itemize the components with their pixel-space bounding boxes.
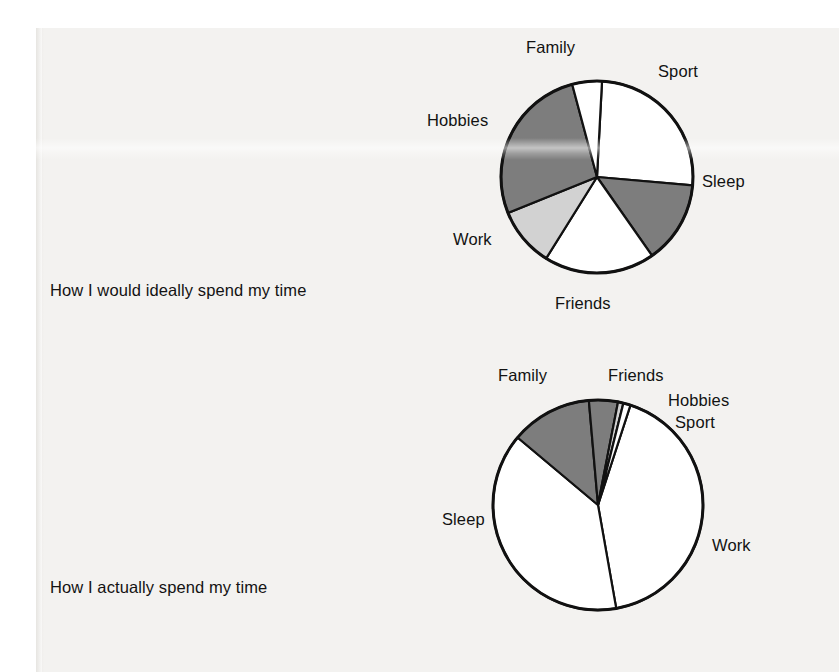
pie-label-friends: Friends [608,366,664,385]
pie-chart-ideal: FamilySportSleepFriendsWorkHobbies [440,30,780,330]
pie-slice-sleep [597,81,693,185]
pie-label-sport: Sport [675,413,715,432]
pie-label-friends: Friends [555,294,611,313]
pie-ideal-slices [501,81,693,273]
pie-label-sleep: Sleep [442,510,485,529]
pie-actual-slices [493,400,703,610]
pie-label-sleep: Sleep [702,172,745,191]
pie-label-family: Family [498,366,547,385]
pie-label-hobbies: Hobbies [668,391,729,410]
pie-label-sport: Sport [658,62,698,81]
caption-actual-chart: How I actually spend my time [50,578,267,597]
pie-label-work: Work [453,230,492,249]
pie-label-work: Work [712,536,751,555]
pie-label-hobbies: Hobbies [427,111,488,130]
pie-label-family: Family [526,38,575,57]
pie-chart-actual: FamilyFriendsHobbiesSportWorkSleep [440,358,780,658]
caption-ideal-chart: How I would ideally spend my time [50,281,306,300]
